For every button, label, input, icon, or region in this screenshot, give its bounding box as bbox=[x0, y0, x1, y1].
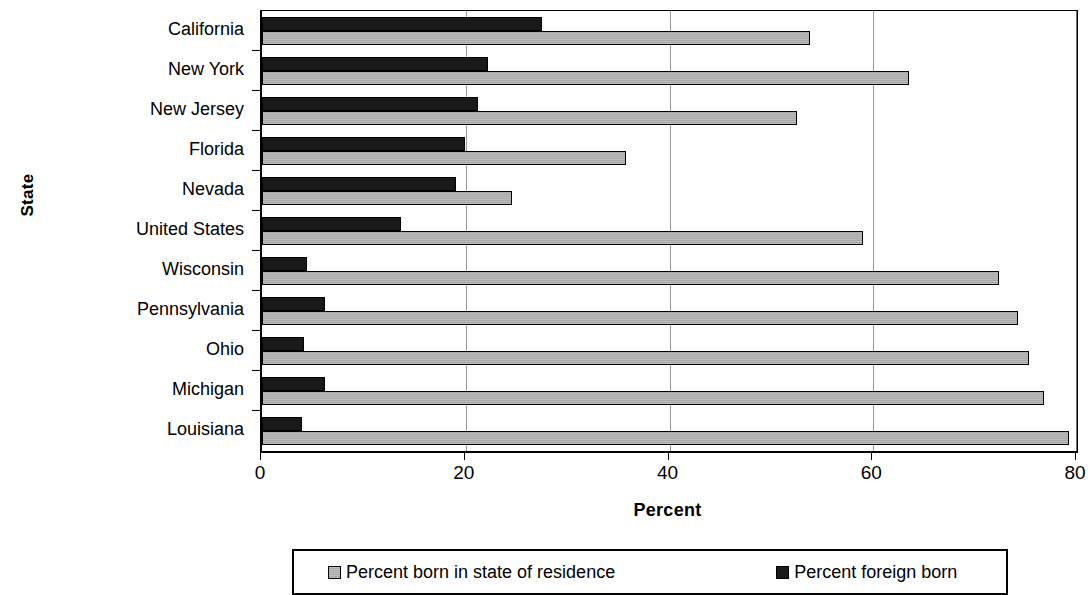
bar-born-in-state bbox=[262, 231, 863, 245]
bar-foreign-born bbox=[262, 377, 325, 391]
legend-item: Percent foreign born bbox=[776, 562, 957, 583]
bar-born-in-state bbox=[262, 31, 810, 45]
x-axis-tick-label: 20 bbox=[434, 462, 494, 484]
x-axis-title: Percent bbox=[260, 500, 1075, 521]
legend-label: Percent foreign born bbox=[794, 562, 957, 583]
y-axis-tick bbox=[252, 330, 260, 331]
bar-foreign-born bbox=[262, 417, 302, 431]
y-axis-tick bbox=[252, 170, 260, 171]
bar-foreign-born bbox=[262, 337, 304, 351]
y-axis-tick-label: United States bbox=[54, 219, 244, 239]
y-axis-title: State bbox=[18, 135, 38, 255]
y-axis-tick bbox=[252, 210, 260, 211]
x-axis-tick bbox=[668, 451, 669, 460]
x-axis-tick bbox=[871, 451, 872, 460]
bar-born-in-state bbox=[262, 391, 1044, 405]
y-axis-tick-label: California bbox=[54, 19, 244, 39]
plot-right-edge bbox=[1076, 11, 1077, 451]
y-axis-tick bbox=[252, 50, 260, 51]
bar-born-in-state bbox=[262, 351, 1029, 365]
bar-foreign-born bbox=[262, 57, 488, 71]
x-axis-tick bbox=[1075, 451, 1076, 460]
y-axis-tick-label: New Jersey bbox=[54, 99, 244, 119]
x-axis-tick-label: 80 bbox=[1045, 462, 1090, 484]
legend-swatch-instate bbox=[328, 566, 341, 579]
bar-born-in-state bbox=[262, 151, 626, 165]
y-axis-tick-label: New York bbox=[54, 59, 244, 79]
y-axis-tick bbox=[252, 90, 260, 91]
legend-swatch-foreign bbox=[776, 566, 789, 579]
y-axis-tick bbox=[252, 290, 260, 291]
bar-born-in-state bbox=[262, 311, 1018, 325]
bar-foreign-born bbox=[262, 217, 401, 231]
bar-born-in-state bbox=[262, 71, 909, 85]
y-axis-tick-label: Wisconsin bbox=[54, 259, 244, 279]
bar-foreign-born bbox=[262, 137, 465, 151]
x-axis-tick-label: 60 bbox=[841, 462, 901, 484]
x-axis-tick bbox=[260, 451, 261, 460]
y-axis-tick-label: Nevada bbox=[54, 179, 244, 199]
bar-chart: State CaliforniaNew YorkNew JerseyFlorid… bbox=[0, 0, 1090, 595]
x-axis-tick-label: 0 bbox=[230, 462, 290, 484]
bar-foreign-born bbox=[262, 177, 456, 191]
legend-label: Percent born in state of residence bbox=[346, 562, 615, 583]
x-axis-tick bbox=[464, 451, 465, 460]
y-axis-tick-label: Michigan bbox=[54, 379, 244, 399]
bar-foreign-born bbox=[262, 97, 478, 111]
y-axis-tick bbox=[252, 410, 260, 411]
bar-foreign-born bbox=[262, 297, 325, 311]
bar-foreign-born bbox=[262, 257, 307, 271]
bar-foreign-born bbox=[262, 17, 542, 31]
y-axis-tick bbox=[252, 130, 260, 131]
bar-born-in-state bbox=[262, 271, 999, 285]
legend-item: Percent born in state of residence bbox=[328, 562, 615, 583]
plot-area bbox=[260, 10, 1078, 453]
bar-born-in-state bbox=[262, 191, 512, 205]
y-axis-tick bbox=[252, 250, 260, 251]
legend: Percent born in state of residencePercen… bbox=[292, 549, 1008, 595]
bar-born-in-state bbox=[262, 111, 797, 125]
bar-born-in-state bbox=[262, 431, 1069, 445]
x-axis-tick-label: 40 bbox=[638, 462, 698, 484]
y-axis-tick-label: Louisiana bbox=[54, 419, 244, 439]
y-axis-tick-label: Pennsylvania bbox=[54, 299, 244, 319]
y-axis-tick-label: Ohio bbox=[54, 339, 244, 359]
y-axis-tick-label: Florida bbox=[54, 139, 244, 159]
y-axis-tick-labels: CaliforniaNew YorkNew JerseyFloridaNevad… bbox=[60, 10, 252, 450]
y-axis-tick bbox=[252, 370, 260, 371]
